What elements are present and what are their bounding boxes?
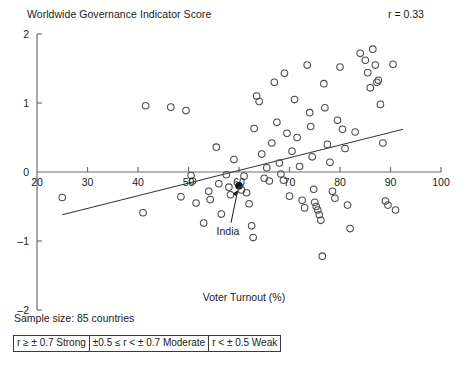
data-point [334,117,341,124]
x-axis-title: Voter Turnout (%) [203,291,285,303]
data-point [392,207,399,214]
data-point [367,85,374,92]
data-point [266,178,273,185]
data-point [226,184,233,191]
data-point [344,202,351,209]
data-point [271,79,278,86]
data-point [231,156,238,163]
x-tick-30: 30 [82,176,94,188]
data-point [243,189,250,196]
data-point [248,223,255,230]
data-point [59,194,66,201]
scatter-plot: India 2030405060708090100–2–1012Voter Tu… [0,0,468,365]
data-point [377,101,384,108]
data-point [372,62,379,69]
y-tick-2: 2 [23,28,29,40]
data-point [370,46,377,53]
data-point [216,180,223,187]
data-point [251,125,258,132]
data-point [342,145,349,152]
data-point [390,61,397,68]
data-point [337,64,344,71]
data-point [364,69,371,76]
y-tick--1: –1 [17,235,29,247]
data-point [205,188,212,195]
chart-figure: Worldwide Governance Indicator Score r =… [0,0,468,365]
data-point [375,77,382,84]
axes [37,34,441,310]
legend-row: r ≥ ± 0.7 Strong ±0.5 ≤ r < ± 0.7 Modera… [14,336,281,352]
data-point [311,199,318,206]
x-tick-40: 40 [132,176,144,188]
data-point [357,50,364,57]
data-point [301,205,308,212]
data-point [307,123,314,130]
data-point [142,102,149,109]
data-point [374,79,381,86]
legend-cell-strong: r ≥ ± 0.7 Strong [14,336,90,352]
data-point [299,197,306,204]
data-point [339,126,346,133]
data-point [321,80,328,87]
data-point [263,165,270,172]
data-point [329,188,336,195]
legend-cell-weak: r < ± 0.5 Weak [209,336,281,352]
data-point [207,196,214,203]
data-point [200,220,207,227]
x-tick-100: 100 [432,176,450,188]
data-point [304,62,311,69]
data-point [284,130,291,137]
data-point [274,119,281,126]
x-tick-80: 80 [334,176,346,188]
x-tick-70: 70 [284,176,296,188]
correlation-strength-legend: r ≥ ± 0.7 Strong ±0.5 ≤ r < ± 0.7 Modera… [13,335,281,352]
legend-cell-moderate: ±0.5 ≤ r < ± 0.7 Moderate [89,336,208,352]
data-point [227,191,234,198]
data-point [352,129,359,136]
data-point [294,134,301,141]
data-point [168,104,175,111]
y-tick-0: 0 [23,166,29,178]
data-point [309,154,316,161]
data-point [213,144,220,151]
data-point [324,141,331,148]
data-point [178,194,185,201]
data-point [306,109,313,116]
data-point [193,200,200,207]
data-point [362,57,369,64]
data-point [286,193,293,200]
data-point [332,195,339,202]
data-point [296,163,303,170]
data-point [250,234,257,241]
sample-size-note: Sample size: 85 countries [14,312,134,324]
data-point [347,225,354,232]
data-point [246,200,253,207]
data-point [183,107,190,114]
data-point [256,98,263,105]
data-point [281,70,288,77]
data-point [218,211,225,218]
data-point [327,159,334,166]
x-tick-50: 50 [183,176,195,188]
data-point [310,186,317,193]
data-point [380,140,387,147]
data-point [291,96,298,103]
data-point [269,140,276,147]
data-point [319,253,326,260]
data-point [322,105,329,112]
x-tick-20: 20 [31,176,43,188]
data-point [289,148,296,155]
data-point [258,151,265,158]
y-tick-1: 1 [23,97,29,109]
x-tick-60: 60 [233,176,245,188]
data-point [140,209,147,216]
x-tick-90: 90 [385,176,397,188]
annotation-label-india: India [217,225,240,237]
